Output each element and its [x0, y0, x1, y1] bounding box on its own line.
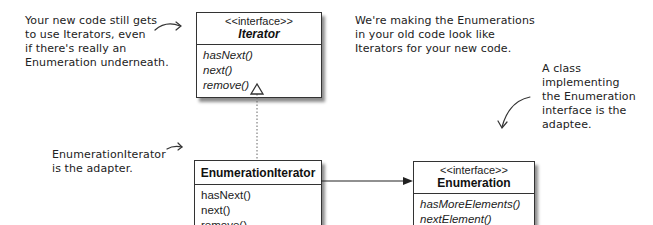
adapter-pointer-arrow-icon: [167, 143, 182, 150]
diagram-connectors: [0, 0, 653, 225]
association-arrow: [321, 177, 413, 185]
realization-arrow: [251, 84, 263, 160]
squiggle-arrow-icon: [155, 22, 181, 30]
adaptee-pointer-arrow-icon: [498, 97, 530, 128]
